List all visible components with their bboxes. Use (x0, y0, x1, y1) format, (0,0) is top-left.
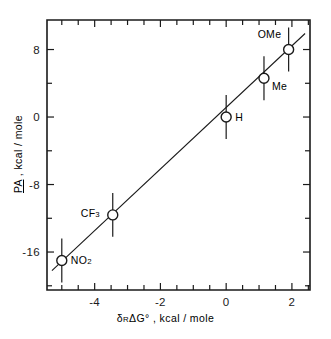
point-label-ome: OMe (258, 28, 282, 40)
scatter-plot: -4-202 80-8-16 (0, 0, 331, 339)
x-axis-tick-labels: -4-202 (89, 296, 295, 308)
data-marker (259, 73, 269, 83)
axes-frame (47, 20, 310, 290)
figure-container: -4-202 80-8-16 NO2CF3HMeOMe δRΔG° , kcal… (0, 0, 331, 339)
y-tick-label: 0 (33, 111, 40, 123)
x-axis-ticks (62, 20, 309, 290)
point-label-cf3: CF3 (81, 207, 100, 219)
x-tick-label: 2 (289, 296, 296, 308)
y-tick-label: 8 (33, 44, 40, 56)
y-axis-ticks (47, 50, 310, 286)
x-tick-label: -4 (89, 296, 100, 308)
x-axis-title: δRΔG° , kcal / mole (0, 312, 331, 324)
y-axis-title: PA , kcal / mole (12, 84, 24, 224)
x-tick-label: -2 (155, 296, 166, 308)
data-marker (108, 210, 118, 220)
fit-line-segment (52, 34, 305, 271)
point-label-me: Me (272, 80, 287, 92)
point-label-no2: NO2 (71, 254, 92, 266)
data-marker (284, 45, 294, 55)
y-tick-label: -16 (22, 246, 40, 258)
point-label-h: H (235, 111, 243, 123)
data-marker (221, 112, 231, 122)
data-marker (57, 255, 67, 265)
x-tick-label: 0 (223, 296, 230, 308)
regression-line (52, 34, 305, 271)
y-tick-label: -8 (29, 179, 40, 191)
y-axis-tick-labels: 80-8-16 (22, 44, 40, 259)
plot-frame (47, 20, 310, 290)
